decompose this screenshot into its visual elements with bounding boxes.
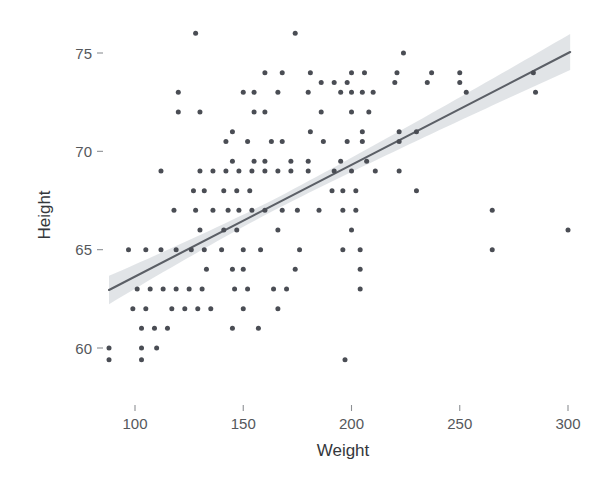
y-tick-label: 70: [75, 143, 92, 160]
x-tick-label: 100: [122, 415, 147, 432]
x-tick-label: 250: [447, 415, 472, 432]
y-tick-label: 75: [75, 45, 92, 62]
y-axis-title: Height: [35, 190, 54, 239]
plot-canvas: 100150200250300 60657075 Weight Height: [0, 0, 613, 480]
x-tick-label: 200: [339, 415, 364, 432]
x-axis-title: Weight: [317, 441, 370, 460]
y-tick-label: 65: [75, 241, 92, 258]
scatter-plot-figure: 100150200250300 60657075 Weight Height: [0, 0, 613, 480]
y-tick-label: 60: [75, 340, 92, 357]
x-tick-label: 300: [555, 415, 580, 432]
x-tick-label: 150: [231, 415, 256, 432]
